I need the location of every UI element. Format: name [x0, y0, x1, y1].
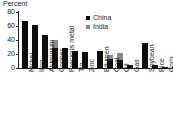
x-label-rice: Rice: [158, 58, 165, 72]
y-tick-label: 20: [7, 50, 15, 57]
y-axis-ticks: 020406080: [0, 0, 18, 134]
bar-chart: Percent 020406080 ChinaIndia NickelIronA…: [0, 0, 173, 134]
x-label-gas: Gas: [133, 59, 140, 72]
x-label-coal: Coal: [113, 58, 120, 72]
x-label-soybean: Soybean: [148, 44, 155, 72]
x-label-aluminium: Aluminium: [48, 39, 55, 72]
x-label-copper: Copper: [58, 49, 65, 72]
x-label-precious-metal: Precious metal: [68, 26, 75, 72]
y-tick-label: 80: [7, 8, 15, 15]
y-tick-label: 60: [7, 22, 15, 29]
y-tick-label: 40: [7, 36, 15, 43]
x-label-oil: Oil: [123, 63, 130, 72]
x-label-iron: Iron: [38, 60, 45, 72]
x-label-tin: Tin: [78, 63, 85, 72]
x-label-corn: Corn: [168, 57, 173, 72]
x-label-nickel: Nickel: [28, 53, 35, 72]
x-label-zinc: Zinc: [88, 59, 95, 72]
x-axis-labels: NickelIronAluminiumCopperPrecious metalT…: [19, 70, 173, 134]
x-label-bitumen: Bitumen: [103, 46, 110, 72]
y-tick-label: 0: [11, 64, 15, 71]
